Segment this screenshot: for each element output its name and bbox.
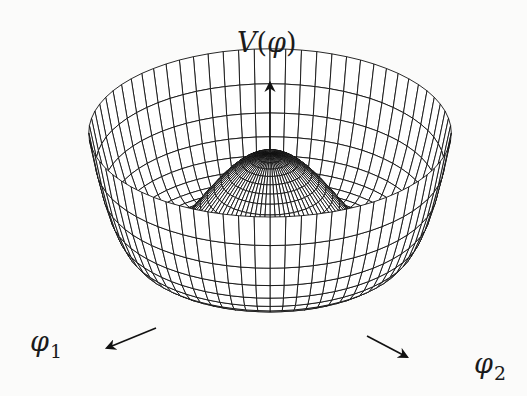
phi2-axis-label: φ2: [474, 350, 506, 377]
phi1-axis-label: φ1: [30, 328, 62, 355]
open-paren: (: [257, 27, 268, 58]
potential-symbol: V: [237, 27, 257, 58]
phi2-symbol: φ: [474, 348, 493, 379]
phi2-subscript: 2: [494, 362, 506, 384]
phi1-symbol: φ: [30, 326, 49, 357]
close-paren: ): [286, 27, 297, 58]
mexican-hat-surface: [0, 0, 527, 396]
potential-axis-label: V(φ): [237, 29, 297, 56]
phi2-axis-arrow: [367, 336, 407, 357]
phi1-subscript: 1: [50, 340, 62, 362]
phi1-axis-arrow: [107, 328, 156, 348]
field-symbol: φ: [267, 27, 286, 58]
